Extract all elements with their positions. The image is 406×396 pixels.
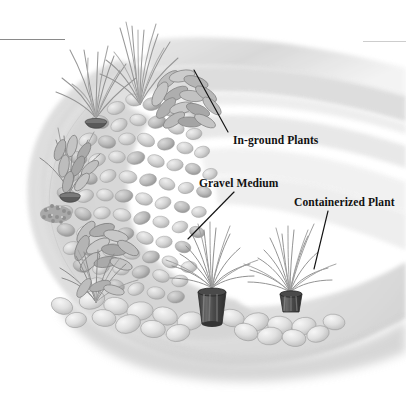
pot-rim-mid-left	[60, 193, 81, 203]
illustration-figure: In-ground Plants Gravel Medium Container…	[0, 0, 406, 396]
callout-label-containerized-plant: Containerized Plant	[294, 196, 395, 208]
nursery-pot-center	[198, 292, 226, 324]
pot-rim-upper-left	[85, 118, 107, 128]
callout-label-gravel-medium: Gravel Medium	[199, 177, 279, 189]
callout-label-in-ground-plants: In-ground Plants	[233, 134, 318, 146]
